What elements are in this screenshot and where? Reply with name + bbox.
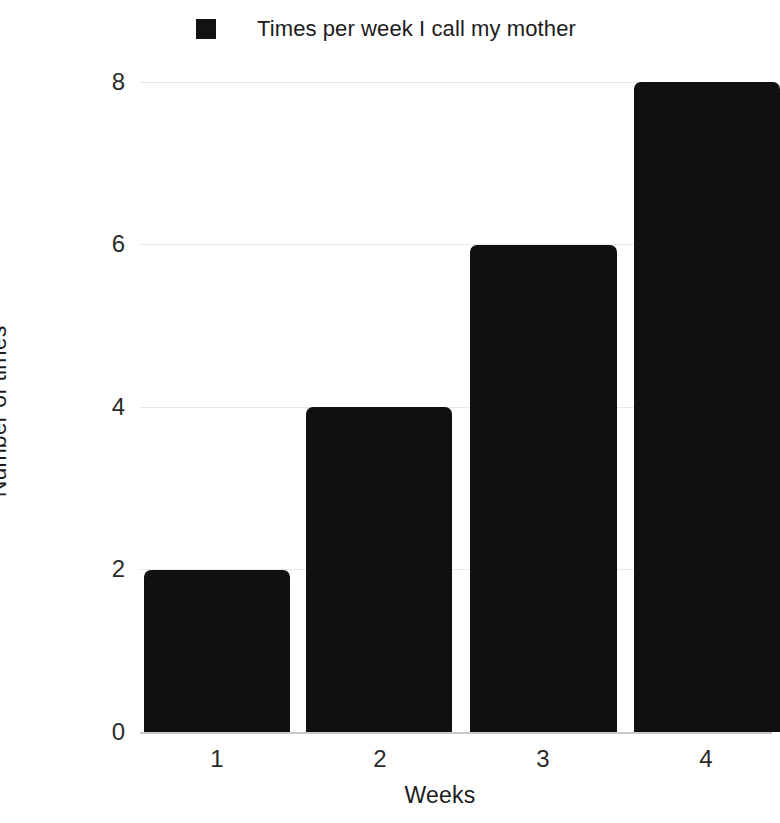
y-tick-4: 4 (35, 393, 125, 421)
x-tick-4: 4 (646, 745, 766, 773)
legend-label-series-1: Times per week I call my mother (257, 18, 576, 40)
y-tick-2: 2 (35, 555, 125, 583)
x-tick-3: 3 (483, 745, 603, 773)
x-axis-title: Weeks (140, 782, 740, 809)
chart-legend: Times per week I call my mother (196, 14, 576, 44)
x-tick-1: 1 (157, 745, 277, 773)
y-axis-title-text: Number of times (0, 326, 12, 498)
bar-week-1[interactable] (144, 570, 290, 732)
bar-week-3[interactable] (470, 245, 617, 732)
x-axis-line (140, 732, 772, 734)
y-tick-0: 0 (35, 718, 125, 746)
legend-swatch-series-1 (196, 19, 216, 39)
y-axis-tick-labels: 8 6 4 2 0 (20, 0, 125, 823)
bar-week-2[interactable] (306, 407, 452, 732)
plot-area (140, 82, 772, 732)
y-tick-6: 6 (35, 230, 125, 258)
bar-week-4[interactable] (634, 82, 780, 732)
y-tick-8: 8 (35, 68, 125, 96)
x-tick-2: 2 (320, 745, 440, 773)
